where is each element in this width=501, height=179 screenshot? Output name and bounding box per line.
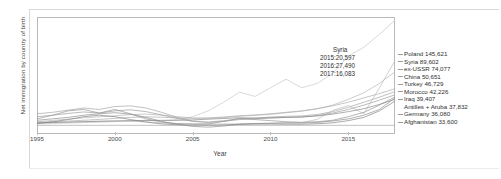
legend-leader-dash-icon	[398, 91, 403, 92]
legend-item-label: China 50,651	[404, 73, 441, 80]
legend-item: Syria 89,602	[404, 58, 500, 66]
legend-item: ex-USSR 74,077	[404, 65, 500, 73]
x-tick-label: 1995	[30, 135, 44, 142]
legend-leader-dash-icon	[398, 84, 403, 85]
annotation-line-1: 2015:20,597	[320, 54, 355, 62]
legend-item-label: ex-USSR 74,077	[404, 65, 450, 72]
legend-item: Poland 145,621	[404, 50, 500, 58]
legend-leader-dash-icon	[398, 122, 403, 123]
legend-leader-dash-icon	[398, 114, 403, 115]
legend-leader-dash-icon	[398, 54, 403, 55]
legend-leader-dash-icon	[398, 76, 403, 77]
legend-item: Turkey 46,729	[404, 80, 500, 88]
x-tick-label: 2000	[108, 135, 122, 142]
legend-item-label: Iraq 39,407	[404, 95, 435, 102]
legend-leader-dash-icon	[398, 61, 403, 62]
series-direct-labels: Poland 145,621Syria 89,602ex-USSR 74,077…	[404, 50, 500, 125]
legend-item-label: Turkey 46,729	[404, 80, 443, 87]
legend-item-label: Afghanistan 33,600	[404, 118, 457, 125]
annotation-line-3: 2017:16,083	[320, 70, 355, 78]
syria-annotation: Syria 2015:20,597 2016:27,490 2017:16,08…	[320, 46, 355, 78]
annotation-line-2: 2016:27,490	[320, 62, 355, 70]
annotation-title: Syria	[320, 46, 355, 54]
x-tick-label: 2010	[264, 135, 278, 142]
legend-item: Iraq 39,407	[404, 95, 500, 103]
legend-item: Morocco 42,226	[404, 88, 500, 96]
figure-outer-frame-bottom	[29, 168, 499, 169]
legend-item: Germany 36,080	[404, 110, 500, 118]
x-tick-label: 2015	[341, 135, 355, 142]
legend-item: China 50,651	[404, 73, 500, 81]
x-tick-label: 2005	[186, 135, 200, 142]
legend-item: Antilles + Aruba 37,832	[404, 103, 500, 111]
legend-item-label: Syria 89,602	[404, 58, 439, 65]
legend-item-label: Morocco 42,226	[404, 88, 448, 95]
x-axis-ticks: 19952000200520102015	[37, 135, 395, 147]
legend-item-label: Germany 36,080	[404, 110, 450, 117]
legend-item-label: Poland 145,621	[404, 50, 447, 57]
legend-item-label: Antilles + Aruba 37,832	[404, 103, 468, 110]
chart-figure: Net immigration by country of birth 1995…	[0, 0, 501, 179]
legend-item: Afghanistan 33,600	[404, 118, 500, 126]
y-axis-label: Net immigration by country of birth	[19, 6, 26, 126]
x-axis-label: Year	[140, 150, 300, 157]
legend-leader-dash-icon	[398, 99, 403, 100]
legend-leader-dash-icon	[398, 69, 403, 70]
